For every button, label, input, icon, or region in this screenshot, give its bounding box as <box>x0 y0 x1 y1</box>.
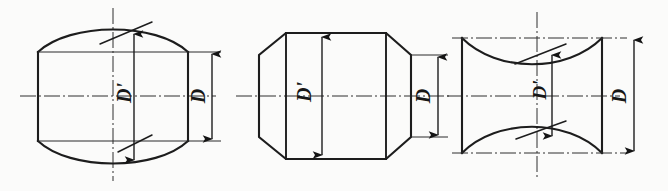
panel-1-dprime-bottom-leader <box>118 135 152 152</box>
panel-3-bottom-concave-curve <box>462 127 602 153</box>
drawing-sheet: D' D D' D <box>0 0 668 191</box>
panel-3-dprime-label: D' <box>529 81 550 101</box>
panel-1-barrel-roller: D' D <box>20 8 221 181</box>
panel-1-dprime-label: D' <box>113 83 135 104</box>
panel-2-octagonal-roller: D' D <box>236 33 452 159</box>
panel-3-hourglass-roller: D' D <box>447 12 634 178</box>
panel-2-d-label: D <box>412 89 434 104</box>
panel-2-dprime-label: D' <box>293 82 315 103</box>
technical-drawing-canvas: D' D D' D <box>0 0 668 191</box>
panel-1-d-label: D <box>187 89 209 104</box>
panel-3-top-concave-curve <box>462 38 602 64</box>
panel-3-d-label: D <box>608 89 630 104</box>
